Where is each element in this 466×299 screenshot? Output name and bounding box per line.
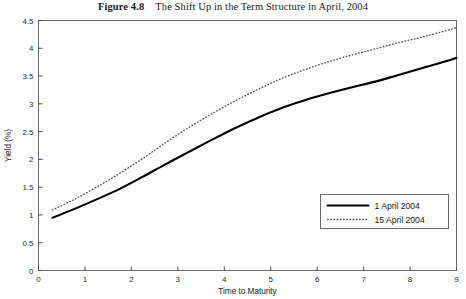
x-tick-label: 7 — [361, 275, 366, 284]
y-tick-label: 2 — [29, 155, 34, 164]
y-tick-label: 0 — [29, 267, 34, 276]
plot-frame — [39, 21, 457, 271]
y-axis-title-group: Yield (%) — [4, 129, 13, 162]
y-tick-label: 4 — [29, 44, 34, 53]
y-tick-label: 1.5 — [22, 183, 34, 192]
x-tick-label: 9 — [454, 275, 459, 284]
x-tick-label: 0 — [36, 275, 41, 284]
y-tick-label: 0.5 — [22, 239, 34, 248]
y-tick-label: 1 — [29, 211, 34, 220]
y-tick-label: 3 — [29, 100, 34, 109]
x-tick-label: 2 — [129, 275, 134, 284]
y-tick-label: 4.5 — [22, 17, 34, 26]
x-tick-label: 5 — [268, 275, 273, 284]
legend-label: 15 April 2004 — [375, 215, 425, 225]
legend-label: 1 April 2004 — [375, 201, 421, 211]
x-tick-label: 3 — [176, 275, 181, 284]
y-tick-label: 2.5 — [22, 128, 34, 137]
figure-container: Figure 4.8The Shift Up in the Term Struc… — [0, 0, 466, 299]
x-tick-label: 8 — [408, 275, 413, 284]
x-axis-title: Time to Maturity — [218, 287, 277, 296]
series-line-1 — [52, 58, 456, 218]
y-axis-title: Yield (%) — [4, 129, 13, 162]
x-tick-label: 6 — [315, 275, 320, 284]
x-tick-label: 4 — [222, 275, 227, 284]
x-tick-label: 1 — [83, 275, 88, 284]
y-tick-label: 3.5 — [22, 72, 34, 81]
line-chart: 00.511.522.533.544.50123456789Time to Ma… — [0, 0, 466, 299]
